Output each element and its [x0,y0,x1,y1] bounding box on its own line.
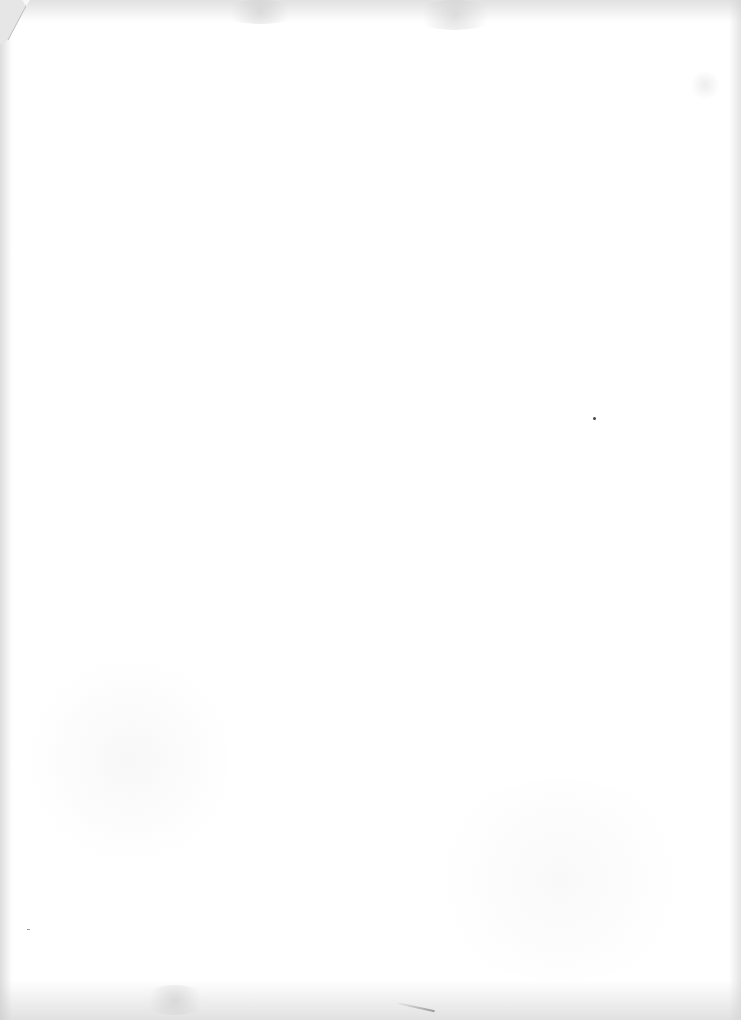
scan-shadow-bottom [0,980,741,1020]
scan-shadow-top [0,0,741,22]
scan-noise [30,650,230,870]
scan-noise [220,0,300,24]
blank-scanned-page [0,0,741,1020]
scan-shadow-right [729,0,741,1020]
scan-noise [140,985,210,1015]
ink-speck [27,929,30,930]
folded-corner-icon [0,0,30,45]
scan-noise [410,0,500,30]
scan-noise [420,780,700,980]
ink-speck [593,417,596,420]
scan-shadow-left [0,0,12,1020]
scan-noise [690,70,720,100]
